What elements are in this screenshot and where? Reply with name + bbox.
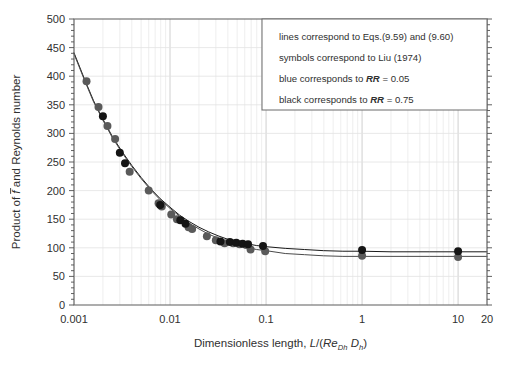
data-point xyxy=(203,232,211,240)
y-tick-label: 350 xyxy=(47,99,65,111)
data-point xyxy=(83,77,91,85)
y-tick-label: 0 xyxy=(59,299,65,311)
data-point xyxy=(111,135,119,143)
x-tick-label: 0.1 xyxy=(258,313,273,325)
y-tick-label: 500 xyxy=(47,13,65,25)
data-point xyxy=(103,122,111,130)
y-tick-label: 200 xyxy=(47,185,65,197)
y-tick-label: 300 xyxy=(47,127,65,139)
x-axis-tick-labels: 0.0010.010.111020 xyxy=(60,313,493,325)
x-tick-label: 0.01 xyxy=(159,313,180,325)
y-axis-title: Product of f and Reynolds number xyxy=(10,75,22,250)
x-axis-title: Dimensionless length, L/(ReDh Dh) xyxy=(194,337,367,352)
legend-line-2: symbols correspond to Liu (1974) xyxy=(279,52,421,63)
y-tick-label: 50 xyxy=(53,270,65,282)
data-point xyxy=(259,242,267,250)
data-point xyxy=(116,149,124,157)
x-tick-label: 0.001 xyxy=(60,313,88,325)
x-tick-label: 20 xyxy=(481,313,493,325)
data-point xyxy=(182,220,190,228)
y-axis-tick-labels: 050100150200250300350400450500 xyxy=(47,13,65,311)
data-point xyxy=(99,112,107,120)
y-axis-title-text: Product of f and Reynolds number xyxy=(10,75,22,250)
data-point xyxy=(358,246,366,254)
data-point xyxy=(95,103,103,111)
y-tick-label: 400 xyxy=(47,70,65,82)
data-point xyxy=(156,201,164,209)
data-point xyxy=(145,187,153,195)
data-point xyxy=(216,238,224,246)
data-point xyxy=(244,240,252,248)
legend-box: lines correspond to Eqs.(9.59) and (9.60… xyxy=(262,19,487,110)
y-tick-label: 100 xyxy=(47,242,65,254)
data-point xyxy=(126,168,134,176)
legend-line-1: lines correspond to Eqs.(9.59) and (9.60… xyxy=(279,31,453,42)
x-tick-label: 1 xyxy=(359,313,365,325)
data-point xyxy=(188,225,196,233)
x-tick-label: 10 xyxy=(452,313,464,325)
chart-svg: 0501001502002503003504004505000.0010.010… xyxy=(0,0,511,367)
data-point xyxy=(121,159,129,167)
legend-line-4: black corresponds to RR = 0.75 xyxy=(279,94,414,105)
data-point xyxy=(454,247,462,255)
y-tick-label: 150 xyxy=(47,213,65,225)
chart-figure: 0501001502002503003504004505000.0010.010… xyxy=(0,0,511,367)
y-tick-label: 450 xyxy=(47,42,65,54)
legend-line-3: blue corresponds to RR = 0.05 xyxy=(279,73,409,84)
y-tick-label: 250 xyxy=(47,156,65,168)
